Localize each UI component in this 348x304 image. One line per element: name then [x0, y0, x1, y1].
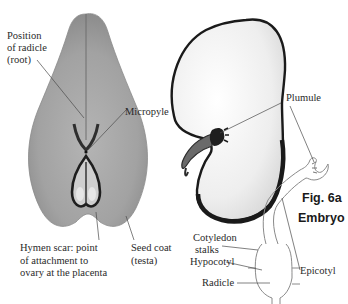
cotyledon-view: [172, 20, 285, 222]
label-line: Seed coat: [131, 242, 172, 255]
label-line: of attachment to: [20, 255, 107, 268]
figure-number: Fig. 6a: [302, 191, 342, 206]
label-plumule: Plumule: [286, 92, 321, 104]
label-micropyle: Micropyle: [125, 106, 169, 118]
label-line: (testa): [131, 255, 172, 268]
label-hypocotyl: Hypocotyl: [190, 256, 234, 268]
label-line: Hymen scar: point: [20, 242, 107, 255]
label-line: of radicle: [7, 42, 47, 54]
label-hymen-scar: Hymen scar: point of attachment to ovary…: [20, 242, 107, 280]
label-seed-coat: Seed coat (testa): [131, 242, 172, 267]
seed-diagram: Position of radicle (root) Micropyle Hym…: [0, 0, 348, 304]
label-radicle: Radicle: [202, 277, 234, 289]
label-line: ovary at the placenta: [20, 267, 107, 280]
label-line: Cotyledon: [193, 232, 237, 244]
label-line: Position: [7, 30, 47, 42]
label-line: stalks: [193, 244, 237, 256]
label-radicle-position: Position of radicle (root): [7, 30, 47, 66]
label-cotyledon-stalks: Cotyledon stalks: [193, 232, 237, 256]
figure-title: Embryo: [298, 211, 345, 226]
label-epicotyl: Epicotyl: [300, 265, 336, 277]
label-line: (root): [7, 54, 47, 66]
